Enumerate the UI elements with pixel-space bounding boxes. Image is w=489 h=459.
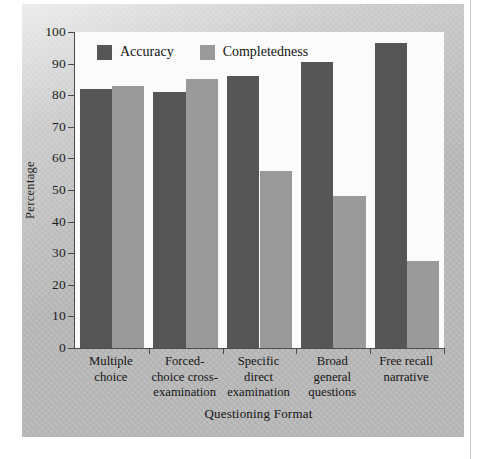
x-axis-category-label-line: Free recall (365, 354, 447, 370)
y-axis-tick-mark (68, 348, 75, 349)
plot-area: 1009080706050403020100 Accuracy Complete… (74, 32, 444, 349)
y-axis-tick-mark (68, 32, 75, 33)
y-axis-tick-mark (68, 95, 75, 96)
x-axis-category-label-line: Specific (218, 354, 300, 370)
y-axis-tick-label: 30 (52, 245, 66, 261)
bar-completedness (112, 86, 144, 348)
page-gutter-line (470, 0, 471, 459)
y-axis-tick-mark (68, 158, 75, 159)
x-axis-category-label-line: Multiple (70, 354, 152, 370)
x-axis-category-label-line: examination (144, 385, 226, 401)
y-axis-title: Percentage (23, 161, 38, 219)
legend-swatch-accuracy-icon (97, 45, 112, 60)
y-axis-tick-mark (68, 253, 75, 254)
y-axis-tick-label: 70 (52, 119, 66, 135)
x-axis-category-label-line: questions (291, 385, 373, 401)
x-axis-title: Questioning Format (74, 406, 443, 422)
y-axis-tick-label: 10 (52, 308, 66, 324)
y-axis-tick-label: 20 (52, 277, 66, 293)
x-axis-category-label: Free recallnarrative (365, 354, 447, 385)
x-axis-category-label-line: direct (218, 370, 300, 386)
y-axis-tick-label: 90 (52, 56, 66, 72)
legend-label-completedness: Completedness (223, 44, 309, 60)
bar-completedness (186, 79, 218, 348)
y-axis-tick-mark (68, 64, 75, 65)
x-axis-category-label: Specificdirectexamination (218, 354, 300, 401)
x-axis-category-label-line: choice cross- (144, 370, 226, 386)
x-axis-category-label: Forced-choice cross-examination (144, 354, 226, 401)
x-axis-category-label-line: general (291, 370, 373, 386)
bar-completedness (407, 261, 439, 348)
legend-swatch-completedness-icon (200, 45, 215, 60)
y-axis-tick-label: 50 (52, 182, 66, 198)
x-axis-category-label-line: Broad (291, 354, 373, 370)
bar-accuracy (153, 92, 185, 348)
x-axis-category-label: Broadgeneralquestions (291, 354, 373, 401)
legend-label-accuracy: Accuracy (120, 44, 174, 60)
y-axis-tick-label: 0 (59, 340, 66, 356)
bar-accuracy (301, 62, 333, 348)
x-axis-category-label-line: narrative (365, 370, 447, 386)
y-axis-tick-mark (68, 316, 75, 317)
scanned-figure-page: Percentage 1009080706050403020100 Accura… (0, 0, 489, 459)
y-axis-tick-label: 60 (52, 150, 66, 166)
chart-legend: Accuracy Completedness (97, 44, 308, 60)
y-axis-tick-label: 100 (45, 24, 66, 40)
bar-accuracy (375, 43, 407, 348)
x-axis-category-label: Multiplechoice (70, 354, 152, 385)
y-axis-tick-label: 80 (52, 87, 66, 103)
legend-entry-accuracy: Accuracy (97, 44, 174, 60)
y-axis-tick-mark (68, 127, 75, 128)
bar-completedness (260, 171, 292, 348)
x-axis-category-label-line: Forced- (144, 354, 226, 370)
x-axis-category-label-line: examination (218, 385, 300, 401)
legend-entry-completedness: Completedness (200, 44, 309, 60)
y-axis-tick-mark (68, 222, 75, 223)
bar-completedness (333, 196, 365, 348)
y-axis-tick-mark (68, 285, 75, 286)
y-axis-tick-mark (68, 190, 75, 191)
x-axis-category-label-line: choice (70, 370, 152, 386)
y-axis-tick-label: 40 (52, 214, 66, 230)
bar-accuracy (80, 89, 112, 348)
bar-accuracy (227, 76, 259, 348)
